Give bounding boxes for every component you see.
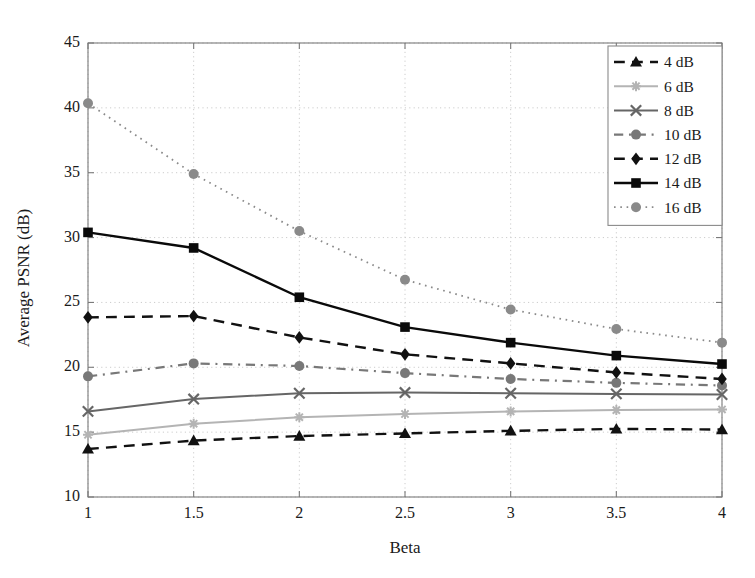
y-tick-label: 30 [36,228,80,246]
data-point-circle [506,305,516,315]
chart-figure: 4 dB6 dB8 dB10 dB12 dB14 dB16 dB 1015202… [0,0,755,578]
y-tick-label: 45 [36,33,80,51]
data-point-circle [294,226,304,236]
x-tick-label: 1 [63,504,113,522]
data-point-circle [189,169,199,179]
data-point-circle [400,368,410,378]
legend-label: 8 dB [664,102,694,119]
y-tick-label: 35 [36,163,80,181]
x-axis-title: Beta [88,538,722,558]
data-point-square [295,292,305,302]
y-tick-label: 40 [36,98,80,116]
x-tick-label: 4 [697,504,747,522]
data-point-circle [294,361,304,371]
data-point-square [717,359,727,369]
data-point-diamond [295,331,305,344]
data-point-square [189,243,199,253]
data-point-square [506,338,516,348]
data-point-star [631,81,641,91]
x-tick-label: 2.5 [380,504,430,522]
data-point-circle [611,378,621,388]
data-point-star [400,409,410,419]
legend-label: 6 dB [664,78,694,95]
y-axis-title: Average PSNR (dB) [14,168,34,388]
data-point-circle [631,202,641,212]
data-point-diamond [612,366,622,379]
data-point-square [400,322,410,332]
legend-label: 10 dB [664,126,701,143]
data-point-circle [83,371,93,381]
data-point-circle [631,130,641,140]
x-tick-label: 3.5 [591,504,641,522]
data-point-star [294,412,304,422]
data-point-diamond [400,348,410,361]
data-point-circle [506,374,516,384]
data-point-star [611,405,621,415]
y-tick-label: 15 [36,422,80,440]
data-point-circle [400,275,410,285]
data-point-square [612,351,622,361]
data-point-diamond [83,311,93,324]
legend-label: 16 dB [664,199,701,216]
data-point-star [189,419,199,429]
data-point-star [506,406,516,416]
x-tick-label: 3 [486,504,536,522]
chart-legend: 4 dB6 dB8 dB10 dB12 dB14 dB16 dB [608,46,722,225]
x-tick-label: 1.5 [169,504,219,522]
data-point-circle [611,324,621,334]
legend-label: 12 dB [664,150,701,167]
data-point-star [83,430,93,440]
data-point-star [717,404,727,414]
y-tick-label: 10 [36,487,80,505]
y-tick-label: 25 [36,292,80,310]
data-point-square [631,178,641,188]
chart-plot-area: 4 dB6 dB8 dB10 dB12 dB14 dB16 dB [0,0,755,578]
y-tick-label: 20 [36,357,80,375]
data-point-square [83,228,93,238]
legend-label: 14 dB [664,174,701,191]
legend-label: 4 dB [664,53,694,70]
data-point-circle [189,358,199,368]
data-point-diamond [189,310,199,323]
data-point-diamond [506,357,516,370]
data-point-circle [83,98,93,108]
data-point-circle [717,338,727,348]
x-tick-label: 2 [274,504,324,522]
